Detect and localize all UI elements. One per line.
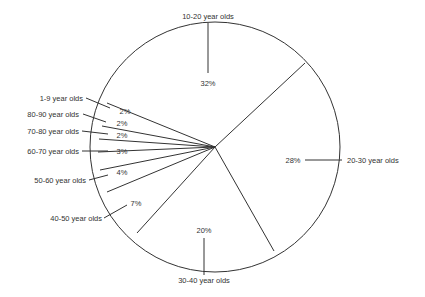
pct-70-80: 2% (117, 131, 128, 140)
label-1-9: 1-9 year olds (40, 94, 84, 103)
pct-20-30: 28% (285, 156, 300, 165)
label-80-90: 80-90 year olds (27, 110, 79, 119)
label-50-60: 50-60 year olds (34, 176, 86, 185)
pie-chart: 10-20 year olds 32% 20-30 year olds 28% … (0, 0, 425, 297)
label-30-40: 30-40 year olds (178, 276, 230, 285)
label-60-70: 60-70 year olds (27, 147, 79, 156)
pct-1-9: 2% (120, 107, 131, 116)
pct-30-40: 20% (196, 226, 211, 235)
label-10-20: 10-20 year olds (182, 12, 234, 21)
label-40-50: 40-50 year olds (50, 214, 102, 223)
pct-60-70: 3% (117, 147, 128, 156)
label-70-80: 70-80 year olds (27, 127, 79, 136)
pct-10-20: 32% (200, 79, 215, 88)
label-20-30: 20-30 year olds (347, 156, 399, 165)
pct-50-60: 4% (117, 168, 128, 177)
pct-80-90: 2% (117, 119, 128, 128)
pct-40-50: 7% (131, 199, 142, 208)
